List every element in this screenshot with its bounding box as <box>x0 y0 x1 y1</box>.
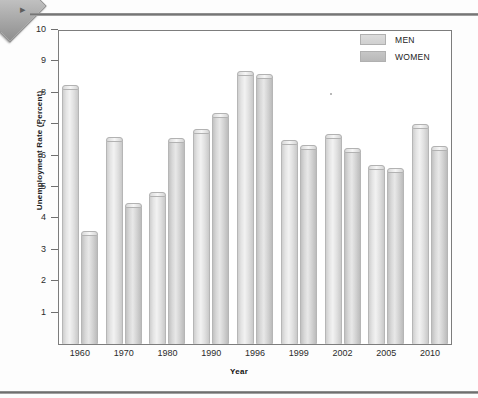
y-tick-10: 10 <box>0 25 58 35</box>
y-tick-label: 3 <box>41 244 46 254</box>
bar-women-2005 <box>387 168 404 344</box>
bar-men-1999 <box>281 140 298 344</box>
bar-women-1980 <box>168 138 185 344</box>
bar-cap <box>431 146 448 151</box>
y-tick-mark <box>51 186 58 187</box>
y-tick-label: 5 <box>41 181 46 191</box>
bar-cap <box>256 74 273 79</box>
legend-label-women: WOMEN <box>395 52 430 62</box>
bar-group-1999 <box>281 30 317 344</box>
y-tick-mark <box>51 155 58 156</box>
bar-men-1980 <box>149 192 166 344</box>
y-tick-mark <box>51 280 58 281</box>
bar-men-1970 <box>106 137 123 344</box>
bar-cap <box>62 85 79 90</box>
y-tick-1: 1 <box>0 308 58 318</box>
y-tick-mark <box>51 123 58 124</box>
y-tick-mark <box>51 217 58 218</box>
bar-cap <box>325 134 342 139</box>
y-tick-label: 7 <box>41 118 46 128</box>
y-tick-label: 8 <box>41 87 46 97</box>
bar-cap <box>149 192 166 197</box>
y-tick-mark <box>51 29 58 30</box>
bar-women-1960 <box>81 231 98 344</box>
chart-legend: MEN WOMEN <box>360 34 430 68</box>
bar-cap <box>106 137 123 142</box>
legend-item-men: MEN <box>360 34 430 45</box>
bar-women-1990 <box>212 113 229 344</box>
y-tick-label: 4 <box>41 212 46 222</box>
x-tick-label-2010: 2010 <box>400 348 460 358</box>
bar-cap <box>281 140 298 145</box>
bar-cap <box>412 124 429 129</box>
bar-group-1990 <box>193 30 229 344</box>
bar-chart: Unemployment Rate (Percent) 12345678910 … <box>0 18 478 380</box>
bar-women-1970 <box>125 203 142 344</box>
y-tick-2: 2 <box>0 276 58 286</box>
bar-cap <box>300 145 317 150</box>
bar-group-1996 <box>237 30 273 344</box>
bar-men-1996 <box>237 71 254 344</box>
bar-women-1996 <box>256 74 273 344</box>
bar-cap <box>81 231 98 236</box>
bar-men-1990 <box>193 129 210 344</box>
corner-arrow-icon: ▸ <box>16 2 30 16</box>
bar-women-2002 <box>344 148 361 344</box>
y-tick-5: 5 <box>0 182 58 192</box>
bar-cap <box>237 71 254 76</box>
y-tick-7: 7 <box>0 119 58 129</box>
print-speck <box>330 93 332 95</box>
bar-cap <box>193 129 210 134</box>
y-tick-label: 6 <box>41 150 46 160</box>
y-tick-9: 9 <box>0 56 58 66</box>
y-tick-mark <box>51 92 58 93</box>
y-tick-6: 6 <box>0 151 58 161</box>
legend-swatch-women <box>360 51 386 62</box>
top-divider <box>30 13 478 16</box>
y-tick-mark <box>51 60 58 61</box>
bar-cap <box>125 203 142 208</box>
bar-cap <box>387 168 404 173</box>
bar-men-2010 <box>412 124 429 344</box>
bar-cap <box>344 148 361 153</box>
bar-women-1999 <box>300 145 317 344</box>
bar-men-2002 <box>325 134 342 344</box>
bar-men-1960 <box>62 85 79 344</box>
x-axis-title: Year <box>0 367 478 376</box>
bar-group-2002 <box>325 30 361 344</box>
y-tick-mark <box>51 249 58 250</box>
bottom-divider <box>0 391 478 394</box>
legend-item-women: WOMEN <box>360 51 430 62</box>
legend-swatch-men <box>360 34 386 45</box>
bar-cap <box>168 138 185 143</box>
bar-series-container <box>58 30 452 344</box>
legend-label-men: MEN <box>395 35 415 45</box>
bar-group-1970 <box>106 30 142 344</box>
y-tick-8: 8 <box>0 88 58 98</box>
y-tick-label: 9 <box>41 55 46 65</box>
bar-men-2005 <box>368 165 385 344</box>
bar-cap <box>212 113 229 118</box>
y-tick-3: 3 <box>0 245 58 255</box>
page-canvas: ▸ Unemployment Rate (Percent) 1234567891… <box>0 0 478 398</box>
y-tick-4: 4 <box>0 213 58 223</box>
bar-women-2010 <box>431 146 448 344</box>
bar-group-1980 <box>149 30 185 344</box>
y-tick-mark <box>51 312 58 313</box>
y-tick-label: 10 <box>36 24 46 34</box>
y-tick-label: 2 <box>41 275 46 285</box>
bar-group-2005 <box>368 30 404 344</box>
bar-cap <box>368 165 385 170</box>
y-tick-label: 1 <box>41 307 46 317</box>
bar-group-2010 <box>412 30 448 344</box>
bar-group-1960 <box>62 30 98 344</box>
